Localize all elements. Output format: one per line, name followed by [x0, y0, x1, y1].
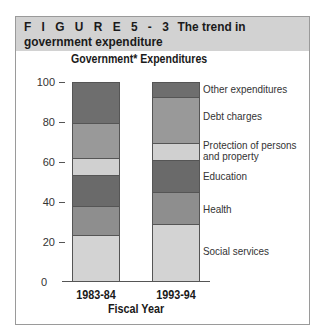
figure-header: F I G U R E 5 - 3The trend in government… — [16, 17, 309, 51]
y-tick-0: 0 — [17, 276, 47, 288]
legend-protection-line2: and property — [203, 150, 259, 162]
segment-health — [153, 192, 199, 224]
y-tick-100: 100 — [25, 76, 55, 88]
legend-health: Health — [203, 203, 232, 215]
segment-health — [73, 206, 119, 235]
legend-debt: Debt charges — [203, 110, 262, 122]
y-tick-80: 80 — [25, 116, 55, 128]
x-label-1993-94: 1993-94 — [149, 288, 203, 302]
y-tickmark — [59, 162, 65, 163]
segment-education — [153, 160, 199, 192]
segment-protection — [73, 158, 119, 175]
bar-1993-94 — [152, 82, 200, 282]
segment-social — [73, 235, 119, 281]
segment-protection — [153, 143, 199, 160]
bar-1983-84 — [72, 82, 120, 282]
legend-social: Social services — [203, 245, 269, 257]
y-tickmark — [59, 202, 65, 203]
chart-title: Government* Expenditures — [71, 52, 207, 66]
segment-other — [153, 83, 199, 97]
x-axis-title: Fiscal Year — [100, 302, 172, 316]
figure-title: F I G U R E 5 - 3The trend in government… — [24, 19, 306, 49]
y-tickmark — [59, 122, 65, 123]
segment-education — [73, 175, 119, 206]
x-label-1983-84: 1983-84 — [69, 288, 123, 302]
segment-social — [153, 224, 199, 281]
y-tickmark — [59, 82, 65, 83]
y-tick-20: 20 — [25, 236, 55, 248]
legend-other: Other expenditures — [203, 83, 287, 95]
figure-label: F I G U R E 5 - 3 — [24, 19, 172, 34]
legend-education: Education — [203, 170, 247, 182]
y-tick-40: 40 — [25, 196, 55, 208]
segment-debt — [73, 123, 119, 158]
segment-debt — [153, 97, 199, 143]
y-tickmark — [59, 242, 65, 243]
segment-other — [73, 83, 119, 123]
y-tick-60: 60 — [25, 156, 55, 168]
